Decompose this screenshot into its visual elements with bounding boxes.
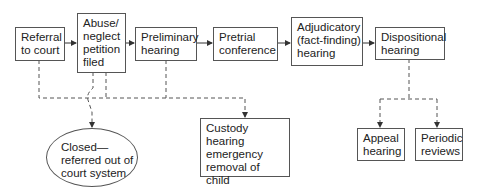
node-label: reviews <box>421 145 462 158</box>
node-referral: Referral to court <box>15 27 65 61</box>
node-label: hearing <box>297 47 362 60</box>
node-label: Adjudicatory <box>297 21 362 34</box>
node-label: hearing <box>141 44 196 57</box>
node-label: child <box>206 174 289 187</box>
node-label: conference <box>219 44 277 57</box>
node-label: referred out of <box>61 154 137 167</box>
node-appeal: Appeal hearing <box>357 128 405 161</box>
node-label: filed <box>83 56 125 69</box>
node-label: Closed— <box>61 141 137 154</box>
node-label: Periodic <box>421 132 462 145</box>
node-label: Appeal <box>363 132 404 145</box>
node-label: petition <box>83 43 125 56</box>
node-label: hearing <box>363 145 404 158</box>
node-label: Referral <box>21 31 64 44</box>
node-label: Preliminary <box>141 31 196 44</box>
node-petition: Abuse/ neglect petition filed <box>77 13 126 73</box>
dashed-to-closed <box>88 72 93 127</box>
node-closed: Closed— referred out of court system <box>46 128 138 187</box>
node-pretrial: Pretrial conference <box>213 27 278 61</box>
node-periodic: Periodic reviews <box>415 128 463 161</box>
node-label: Dispositional <box>381 31 444 44</box>
node-custody: Custody hearing emergency removal of chi… <box>200 118 290 177</box>
node-label: court system <box>61 167 137 180</box>
node-label: (fact-finding) <box>297 34 362 47</box>
node-label: Pretrial <box>219 31 277 44</box>
node-dispositional: Dispositional hearing <box>375 27 445 60</box>
node-label: emergency <box>206 148 289 161</box>
node-label: removal of <box>206 161 289 174</box>
node-label: to court <box>21 44 64 57</box>
node-adjudicatory: Adjudicatory (fact-finding) hearing <box>291 17 363 66</box>
dashed-to-custody <box>39 60 245 117</box>
node-label: hearing <box>381 44 444 57</box>
node-label: Custody hearing <box>206 122 289 148</box>
node-label: neglect <box>83 30 125 43</box>
node-preliminary: Preliminary hearing <box>135 27 197 61</box>
node-label: Abuse/ <box>83 17 125 30</box>
